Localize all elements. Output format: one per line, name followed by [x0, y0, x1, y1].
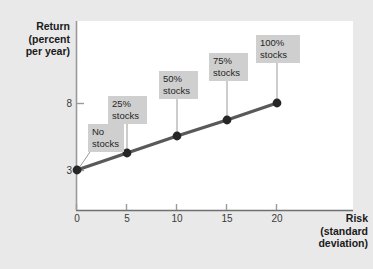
x-tick-label-5: 5 — [116, 213, 138, 224]
y-tick-label-3: 3 — [52, 165, 72, 176]
callout-50-stocks: 50% stocks — [159, 71, 198, 99]
x-axis-title: Risk (standard deviation) — [286, 212, 368, 250]
callout-100-stocks: 100% stocks — [256, 35, 300, 63]
data-point-100-stocks — [273, 99, 282, 108]
x-tick-label-20: 20 — [266, 213, 288, 224]
y-tick-label-8: 8 — [52, 98, 72, 109]
data-point-50-stocks — [173, 132, 182, 141]
chart-figure: Return (percent per year) Risk (standard… — [0, 0, 373, 269]
x-tick-label-10: 10 — [166, 213, 188, 224]
x-tick-label-0: 0 — [66, 213, 88, 224]
y-axis-title: Return (percent per year) — [6, 20, 70, 58]
x-tick-label-15: 15 — [216, 213, 238, 224]
data-point-75-stocks — [223, 116, 232, 125]
callout-75-stocks: 75% stocks — [209, 53, 248, 81]
callout-no-stocks: No stocks — [88, 124, 124, 152]
data-point-no-stocks — [73, 166, 82, 175]
callout-25-stocks: 25% stocks — [108, 96, 147, 124]
